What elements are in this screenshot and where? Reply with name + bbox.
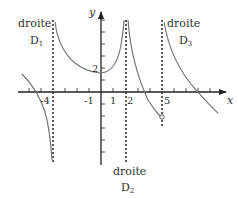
x-tick-label-neg1: -1: [84, 95, 94, 106]
x-tick-label-1: 1: [110, 95, 116, 106]
open-endpoint: [160, 115, 164, 119]
curve-branch-4: [164, 22, 218, 113]
function-graph: x y -4 -1 1 2 5 2 droite D1 droite D2 dr…: [0, 0, 238, 198]
d2-name: D2: [121, 181, 134, 195]
d3-word: droite: [167, 17, 200, 30]
x-tick-label-2: 2: [127, 95, 133, 106]
x-axis-label: x: [227, 94, 234, 107]
d3-name: D3: [179, 34, 192, 48]
curve-branch-1: [22, 74, 52, 160]
y-axis-label: y: [88, 6, 96, 19]
curve-branch-2: [55, 20, 124, 73]
y-tick-label-2: 2: [92, 63, 98, 74]
d1-word: droite: [18, 17, 51, 30]
d2-word: droite: [113, 165, 146, 178]
x-tick-label-neg4: -4: [40, 95, 50, 106]
d1-name: D1: [30, 34, 43, 48]
x-tick-label-5: 5: [164, 95, 170, 106]
